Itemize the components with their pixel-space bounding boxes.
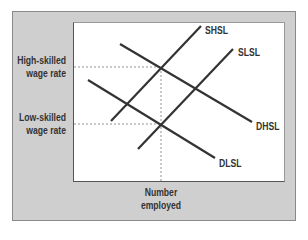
number-employed-label-line2: employed bbox=[128, 199, 194, 212]
slsl-label: SLSL bbox=[238, 46, 260, 58]
number-employed-label: Number employed bbox=[128, 186, 194, 212]
low-skilled-wage-label: Low-skilled wage rate bbox=[17, 111, 66, 137]
low-skilled-wage-label-line1: Low-skilled bbox=[17, 111, 66, 124]
shsl-label: SHSL bbox=[205, 24, 228, 36]
supply-high-skilled-curve bbox=[111, 26, 201, 121]
high-skilled-wage-label-line1: High-skilled bbox=[17, 54, 66, 67]
dlsl-label: DLSL bbox=[219, 157, 241, 169]
demand-low-skilled-curve bbox=[88, 80, 215, 158]
number-employed-label-line1: Number bbox=[128, 186, 194, 199]
high-skilled-wage-label-line2: wage rate bbox=[17, 67, 66, 80]
low-skilled-wage-label-line2: wage rate bbox=[17, 124, 66, 137]
demand-high-skilled-curve bbox=[120, 44, 252, 122]
high-skilled-wage-label: High-skilled wage rate bbox=[17, 54, 66, 80]
dhsl-label: DHSL bbox=[256, 120, 279, 132]
